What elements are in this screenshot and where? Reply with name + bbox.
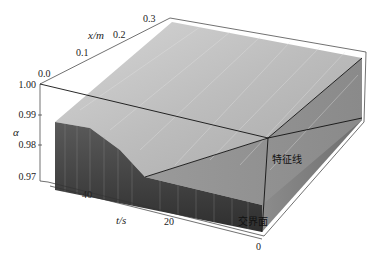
z-tick-0.98: 0.98 bbox=[19, 139, 37, 150]
z-tick-0.97: 0.97 bbox=[19, 171, 37, 182]
x-axis-label: x/m bbox=[87, 29, 104, 41]
x-tick-0.2: 0.2 bbox=[113, 29, 126, 40]
z-tick-0.99: 0.99 bbox=[19, 109, 37, 120]
t-axis-label: t/s bbox=[116, 214, 126, 226]
z-tick-1.00: 1.00 bbox=[19, 79, 37, 90]
x-tick-0.3: 0.3 bbox=[143, 13, 156, 24]
x-tick-0.0: 0.0 bbox=[38, 68, 51, 79]
characteristic-line-label: 特征线 bbox=[272, 153, 302, 165]
z-axis-label: α bbox=[13, 126, 19, 138]
t-tick-20: 20 bbox=[164, 216, 174, 227]
t-tick-40: 40 bbox=[82, 189, 92, 200]
surface-plot: 1.00 0.99 0.98 0.97 α 0.0 0.1 0.2 0.3 x/… bbox=[0, 0, 377, 259]
interface-label: 交界面 bbox=[238, 215, 268, 227]
z-axis: 1.00 0.99 0.98 0.97 α bbox=[13, 79, 42, 182]
t-tick-0: 0 bbox=[256, 241, 261, 252]
x-tick-0.1: 0.1 bbox=[76, 47, 89, 58]
